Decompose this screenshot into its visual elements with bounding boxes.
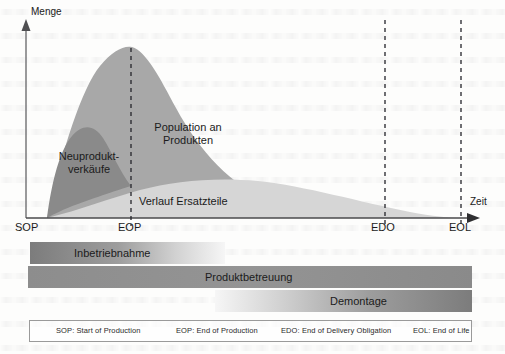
y-axis-arrow-icon <box>22 19 31 31</box>
phase-label-inbetriebnahme: Inbetriebnahme <box>74 247 150 259</box>
milestone-label-edo: EDO <box>371 221 395 233</box>
legend-item-edo: EDO: End of Delivery Obligation <box>281 326 391 335</box>
legend-item-sop: SOP: Start of Production <box>56 326 141 335</box>
x-axis-title: Zeit <box>470 196 487 207</box>
phase-label-demontage: Demontage <box>330 295 387 307</box>
legend-box: SOP: Start of Production EOP: End of Pro… <box>29 320 472 342</box>
milestone-label-sop: SOP <box>15 221 38 233</box>
legend-item-eol: EOL: End of Life <box>413 326 470 335</box>
milestone-label-eol: EOL <box>449 221 471 233</box>
phase-label-produktbetreuung: Produktbetreuung <box>205 271 292 283</box>
curve-label-neuprodukt-line2: verkäufe <box>47 163 131 176</box>
curve-label-verlauf-ersatzteile: Verlauf Ersatzteile <box>139 195 228 208</box>
legend-item-eop: EOP: End of Production <box>176 326 258 335</box>
curve-label-population-line2: Produkten <box>140 134 236 147</box>
milestone-label-eop: EOP <box>118 221 141 233</box>
lifecycle-diagram <box>0 0 505 354</box>
curve-label-population-line1: Population an <box>140 121 236 134</box>
y-axis-title: Menge <box>31 6 62 17</box>
figure-canvas: Menge Zeit SOP EOP EDO EOL Population an… <box>0 0 505 354</box>
curve-label-neuprodukt-line1: Neuprodukt- <box>47 150 131 163</box>
